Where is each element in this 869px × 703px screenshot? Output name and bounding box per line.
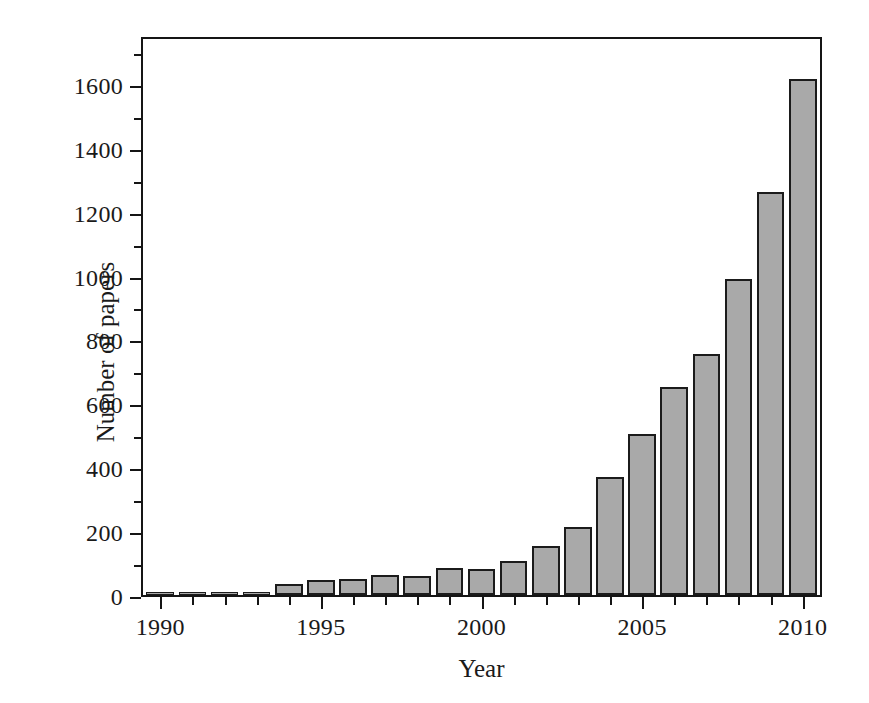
x-minor-tick-2008 bbox=[738, 597, 740, 605]
x-tick-label-2005: 2005 bbox=[618, 615, 667, 639]
bar-1996 bbox=[339, 579, 367, 595]
y-axis-title: Number of papers bbox=[92, 261, 120, 442]
bar-2009 bbox=[757, 192, 785, 595]
y-tick-label-400: 400 bbox=[86, 457, 123, 481]
bar-2008 bbox=[725, 279, 753, 595]
y-major-tick-800 bbox=[130, 341, 141, 343]
bar-1991 bbox=[179, 592, 207, 596]
x-minor-tick-2002 bbox=[546, 597, 548, 605]
bar-1990 bbox=[146, 592, 174, 596]
bar-1998 bbox=[403, 576, 431, 595]
y-tick-label-200: 200 bbox=[86, 521, 123, 545]
y-minor-tick-700 bbox=[134, 373, 141, 375]
y-minor-tick-1700 bbox=[134, 54, 141, 56]
x-minor-tick-1996 bbox=[353, 597, 355, 605]
bar-1994 bbox=[275, 584, 303, 595]
x-minor-tick-2001 bbox=[514, 597, 516, 605]
y-tick-label-1600: 1600 bbox=[74, 74, 123, 98]
x-minor-tick-1993 bbox=[257, 597, 259, 605]
x-tick-label-2010: 2010 bbox=[778, 615, 827, 639]
bar-1995 bbox=[307, 580, 335, 595]
bar-2004 bbox=[596, 477, 624, 595]
y-major-tick-400 bbox=[130, 469, 141, 471]
y-minor-tick-500 bbox=[134, 437, 141, 439]
bar-2010 bbox=[789, 79, 817, 595]
x-minor-tick-1994 bbox=[289, 597, 291, 605]
y-tick-label-1400: 1400 bbox=[74, 138, 123, 162]
bar-2003 bbox=[564, 527, 592, 595]
x-minor-tick-1999 bbox=[449, 597, 451, 605]
x-major-tick-1995 bbox=[321, 597, 323, 609]
bar-2007 bbox=[693, 354, 721, 596]
y-major-tick-600 bbox=[130, 405, 141, 407]
y-minor-tick-300 bbox=[134, 501, 141, 503]
bar-1999 bbox=[436, 568, 464, 595]
x-minor-tick-1998 bbox=[417, 597, 419, 605]
y-major-tick-1600 bbox=[130, 86, 141, 88]
x-minor-tick-2009 bbox=[771, 597, 773, 605]
x-minor-tick-1992 bbox=[225, 597, 227, 605]
bar-1993 bbox=[243, 592, 271, 596]
bar-2000 bbox=[468, 569, 496, 595]
x-major-tick-1990 bbox=[160, 597, 162, 609]
y-minor-tick-1100 bbox=[134, 246, 141, 248]
x-axis-title: Year bbox=[141, 655, 822, 683]
y-minor-tick-100 bbox=[134, 565, 141, 567]
x-minor-tick-1997 bbox=[385, 597, 387, 605]
x-major-tick-2010 bbox=[803, 597, 805, 609]
plot-frame bbox=[141, 37, 822, 597]
bar-1992 bbox=[211, 592, 239, 596]
bar-2006 bbox=[660, 387, 688, 595]
x-minor-tick-2007 bbox=[706, 597, 708, 605]
y-major-tick-1200 bbox=[130, 214, 141, 216]
bar-2001 bbox=[500, 561, 528, 595]
x-major-tick-2000 bbox=[482, 597, 484, 609]
plot-area bbox=[143, 39, 820, 595]
x-tick-label-1990: 1990 bbox=[136, 615, 185, 639]
x-minor-tick-2006 bbox=[674, 597, 676, 605]
bar-2005 bbox=[628, 434, 656, 595]
y-minor-tick-900 bbox=[134, 309, 141, 311]
x-major-tick-2005 bbox=[642, 597, 644, 609]
y-tick-label-1200: 1200 bbox=[74, 202, 123, 226]
y-tick-label-0: 0 bbox=[111, 585, 123, 609]
bar-2002 bbox=[532, 546, 560, 595]
y-major-tick-0 bbox=[130, 597, 141, 599]
x-tick-label-1995: 1995 bbox=[296, 615, 345, 639]
y-major-tick-200 bbox=[130, 533, 141, 535]
x-tick-label-2000: 2000 bbox=[457, 615, 506, 639]
x-minor-tick-2004 bbox=[610, 597, 612, 605]
x-minor-tick-2003 bbox=[578, 597, 580, 605]
y-major-tick-1000 bbox=[130, 278, 141, 280]
x-axis: 19901995200020052010 bbox=[0, 597, 869, 703]
y-minor-tick-1300 bbox=[134, 182, 141, 184]
bar-chart-figure: Number of papers 02004006008001000120014… bbox=[0, 0, 869, 703]
y-minor-tick-1500 bbox=[134, 118, 141, 120]
y-major-tick-1400 bbox=[130, 150, 141, 152]
bar-1997 bbox=[371, 575, 399, 595]
x-minor-tick-1991 bbox=[192, 597, 194, 605]
